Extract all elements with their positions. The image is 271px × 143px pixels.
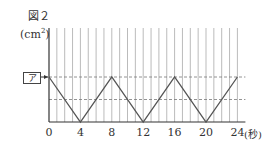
x-tick-label: 16 (168, 126, 182, 139)
x-tick-label: 0 (46, 126, 53, 139)
x-axis-unit: (秒) (244, 126, 262, 141)
x-tick-label: 24 (230, 126, 244, 139)
y-marker-label: ア (23, 72, 41, 84)
x-tick-label: 8 (108, 126, 115, 139)
x-tick-label: 20 (199, 126, 213, 139)
x-tick-label: 4 (77, 126, 84, 139)
x-tick-label: 12 (136, 126, 150, 139)
